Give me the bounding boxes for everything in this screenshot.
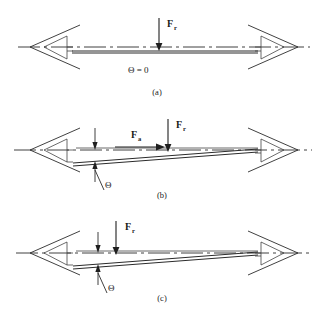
angle-label-a: Θ = 0 bbox=[128, 65, 149, 75]
angle-label-b: Θ bbox=[105, 180, 112, 190]
beam-c bbox=[73, 251, 258, 269]
angle-label-c: Θ bbox=[108, 283, 115, 293]
panel-label-b: (b) bbox=[157, 190, 167, 200]
panel-b: Θ F a F r (b) bbox=[14, 119, 312, 200]
force-fa-b: F a bbox=[115, 129, 165, 151]
angle-leader-b bbox=[95, 170, 104, 190]
angle-indicator-b-lower-head bbox=[92, 161, 97, 169]
force-fr-b-subscript: r bbox=[183, 125, 186, 132]
force-fa-b-subscript: a bbox=[138, 135, 142, 142]
force-fr-c: F r bbox=[113, 221, 135, 255]
force-fr-a-symbol: F bbox=[167, 18, 173, 29]
angle-leader-c bbox=[98, 273, 107, 293]
force-fr-a: F r bbox=[156, 18, 177, 51]
angle-indicator-c: Θ bbox=[95, 232, 115, 293]
panel-a: F r Θ = 0 (a) bbox=[18, 18, 310, 97]
panel-label-a: (a) bbox=[152, 87, 162, 97]
beam-a bbox=[72, 51, 258, 53]
panel-label-c: (c) bbox=[157, 293, 167, 303]
force-fa-b-arrowhead bbox=[156, 143, 165, 150]
figure-container: F r Θ = 0 (a) bbox=[0, 0, 324, 327]
angle-indicator-c-upper-head bbox=[95, 245, 100, 253]
angle-indicator-b-upper-head bbox=[92, 142, 97, 150]
force-fr-c-symbol: F bbox=[125, 221, 131, 232]
force-fr-b: F r bbox=[165, 119, 186, 152]
beam-b bbox=[73, 148, 258, 166]
panel-c: Θ F r (c) bbox=[16, 221, 312, 303]
angle-indicator-c-lower-head bbox=[95, 264, 100, 272]
force-fr-a-subscript: r bbox=[174, 24, 177, 31]
angle-indicator-b: Θ bbox=[92, 128, 112, 190]
force-fa-b-symbol: F bbox=[131, 129, 137, 140]
force-fr-c-subscript: r bbox=[132, 227, 135, 234]
force-fr-b-symbol: F bbox=[176, 119, 182, 130]
beam-support-diagram: F r Θ = 0 (a) bbox=[0, 0, 324, 327]
